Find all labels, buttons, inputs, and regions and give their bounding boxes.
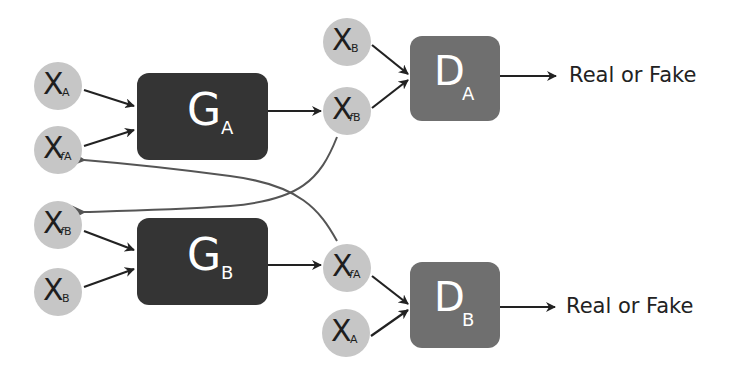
edge-xfa-to-db [372,276,408,304]
edge-xa-to-db [371,310,408,336]
edge-xfa-to-ga [84,130,134,146]
output-label-db: Real or Fake [566,293,693,319]
edge-xb-to-da [372,45,408,74]
node-x-fb-bottom: X fB [34,201,82,249]
edge-xa-to-ga [84,90,134,106]
discriminator-a-box: D A [410,36,500,121]
output-label-da: Real or Fake [569,62,696,88]
node-x-a-bottom: X A [322,309,370,357]
discriminator-b-box: D B [410,262,500,348]
node-x-a-top: X A [34,62,82,110]
node-x-fa-top: X fA [34,126,82,174]
edge-xb-to-gb [84,269,134,287]
connections-layer [0,0,747,377]
node-x-b-top: X B [323,18,371,66]
node-x-b-bottom: X B [34,268,82,316]
edge-xfb-to-da [372,80,408,108]
node-x-fb-top: X fB [323,87,371,135]
generator-b-box: G B [137,218,268,305]
node-x-fa-bottom: X fA [323,244,371,292]
generator-a-box: G A [137,73,268,160]
edge-xfb-to-gb [84,231,134,250]
